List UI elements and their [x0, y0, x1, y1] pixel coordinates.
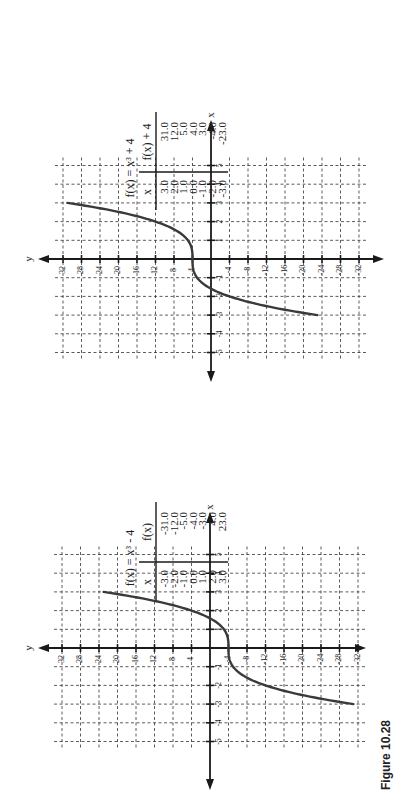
y-tick-label: 24: [95, 266, 104, 274]
x-tick-label: 3: [214, 590, 223, 594]
x-tick-label: 3: [215, 201, 224, 205]
x-tick-label: -5: [215, 349, 224, 356]
y-tick-label: -12: [260, 654, 269, 665]
x-tick-label: -4: [214, 719, 223, 726]
x-tick-label: -1: [214, 663, 223, 670]
arrow-left-icon: [38, 255, 49, 263]
y-tick-label: -20: [298, 265, 307, 276]
figure-canvas: xy-5-4-3-2-112345-32-28-24-20-16-12-8-44…: [0, 0, 397, 796]
y-tick-label: 20: [113, 266, 122, 274]
y-tick-label: -32: [353, 654, 362, 665]
table-title: f(x) = x³ - 4: [123, 530, 137, 586]
y-tick-label: 16: [132, 266, 141, 274]
y-tick-label: 8: [169, 268, 178, 272]
arrow-right-icon: [373, 255, 384, 263]
y-tick-label: -20: [297, 654, 306, 665]
y-tick-label: 28: [75, 655, 84, 663]
x-tick-label: -5: [214, 738, 223, 745]
y-tick-label: 32: [58, 266, 67, 274]
figure-page: xy-5-4-3-2-112345-32-28-24-20-16-12-8-44…: [0, 0, 397, 796]
x-tick-label: -3: [215, 312, 224, 319]
table-header-x: x: [140, 189, 154, 195]
y-tick-label: -28: [334, 654, 343, 665]
y-tick-label: 12: [150, 266, 159, 274]
x-axis-label: x: [204, 112, 216, 118]
x-tick-label: 5: [215, 164, 224, 168]
x-tick-label: 2: [214, 609, 223, 613]
y-tick-label: 24: [94, 655, 103, 663]
y-axis-label: y: [22, 645, 34, 651]
graph-bottom: xy-5-4-3-2-112345-32-28-24-20-16-12-8-44…: [22, 502, 366, 790]
x-tick-label: -1: [215, 274, 224, 281]
y-tick-label: 32: [57, 655, 66, 663]
y-tick-label: -16: [279, 654, 288, 665]
graph-top: xy-5-4-3-2-112345-32-28-24-20-16-12-8-44…: [22, 112, 384, 382]
x-tick-label: 2: [215, 220, 224, 224]
table-header-fx: f(x) + 4: [140, 124, 154, 161]
y-tick-label: -8: [242, 656, 251, 663]
y-tick-label: -24: [317, 265, 326, 276]
figure-label: Figure 10.28: [379, 720, 393, 790]
table-title: f(x) = x³ + 4: [123, 138, 137, 197]
x-tick-label: -3: [214, 701, 223, 708]
y-tick-label: 20: [112, 655, 121, 663]
table-header-x: x: [140, 579, 154, 585]
y-tick-label: -24: [316, 654, 325, 665]
y-tick-label: 12: [149, 655, 158, 663]
arrow-left-icon: [38, 644, 49, 652]
value-table: f(x) = x³ - 4xf(x)-3.0-2.0-1.00.01.02.03…: [123, 502, 228, 600]
arrow-down-icon: [207, 371, 215, 382]
y-tick-label: -4: [224, 267, 233, 274]
y-tick-label: 4: [186, 657, 195, 661]
x-tick-label: -2: [214, 682, 223, 689]
x-tick-label: 5: [214, 553, 223, 557]
x-tick-label: 1: [215, 238, 224, 242]
y-tick-label: -8: [243, 267, 252, 274]
axes: xy: [22, 112, 384, 382]
y-tick-label: -12: [261, 265, 270, 276]
table-header-fx: f(x): [140, 523, 154, 541]
table-cell-fx: 23.0: [216, 512, 228, 532]
table-cell-fx: -23.0: [216, 122, 228, 145]
x-axis-label: x: [203, 504, 215, 510]
y-tick-label: 8: [168, 657, 177, 661]
y-tick-label: 28: [76, 266, 85, 274]
y-tick-label: 16: [131, 655, 140, 663]
axes: xy: [22, 504, 366, 790]
y-tick-label: -32: [354, 265, 363, 276]
x-tick-label: -4: [215, 330, 224, 337]
y-tick-label: -28: [335, 265, 344, 276]
value-table: f(x) = x³ + 4xf(x) + 43.02.01.00.0-1.0-2…: [123, 112, 228, 210]
arrow-down-icon: [206, 779, 214, 790]
table-cell-x: -3.0: [216, 180, 228, 198]
y-axis-label: y: [22, 256, 34, 262]
y-tick-label: -16: [280, 265, 289, 276]
table-cell-x: 3.0: [216, 570, 228, 584]
arrow-right-icon: [355, 644, 366, 652]
